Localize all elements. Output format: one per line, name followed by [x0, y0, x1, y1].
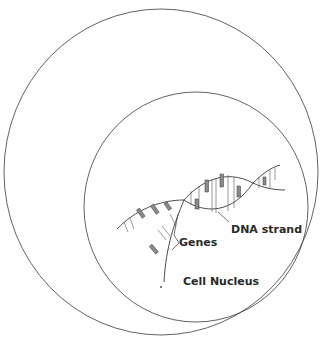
- genes-label: Genes: [179, 236, 218, 249]
- dna-strand-label: DNA strand: [231, 223, 302, 236]
- dot-marker: [160, 286, 162, 288]
- cell-nucleus-label: Cell Nucleus: [183, 275, 260, 288]
- cell-diagram: Genes DNA strand Cell Nucleus: [0, 0, 323, 343]
- dna-strand-leader: [218, 212, 229, 222]
